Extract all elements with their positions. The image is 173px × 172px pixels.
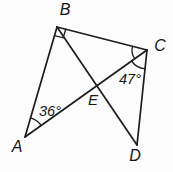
- segment-AB: [25, 27, 57, 137]
- vertex-label-A: A: [11, 138, 23, 155]
- vertex-label-C: C: [154, 37, 166, 54]
- vertex-label-B: B: [60, 1, 71, 18]
- vertex-label-D: D: [129, 147, 141, 164]
- angle-label-47: 47°: [119, 71, 141, 87]
- angle-arc-C-lower: [132, 61, 146, 69]
- vertex-label-E: E: [88, 91, 99, 108]
- geometry-diagram: A B C D E 36° 47°: [0, 0, 173, 172]
- angle-label-36: 36°: [39, 103, 61, 119]
- figure-svg: A B C D E 36° 47°: [0, 0, 173, 172]
- segment-CD: [137, 50, 147, 145]
- angle-arc-C-upper: [132, 46, 135, 58]
- segment-AC: [25, 50, 147, 137]
